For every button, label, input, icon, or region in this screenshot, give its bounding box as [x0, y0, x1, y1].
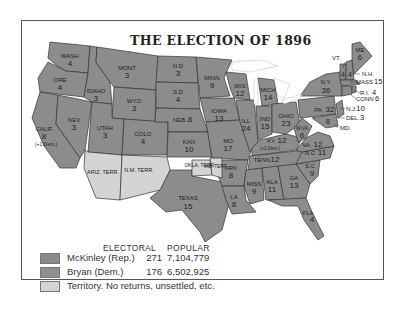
svg-text:4: 4 — [58, 83, 63, 92]
svg-text:3: 3 — [125, 71, 130, 80]
svg-text:9: 9 — [310, 169, 315, 178]
legend-row-bryan: Bryan (Dem.) 176 6,502,925 — [40, 267, 340, 279]
svg-text:8: 8 — [188, 115, 193, 124]
svg-text:KY: KY — [267, 138, 275, 144]
legend-row-mckinley: McKinley (Rep.) 271 7,104,779 — [40, 253, 340, 265]
svg-text:MD.: MD. — [340, 125, 351, 131]
map-title: THE ELECTION OF 1896 — [130, 33, 312, 48]
svg-text:4: 4 — [141, 137, 146, 146]
svg-text:8: 8 — [232, 200, 237, 209]
svg-text:15: 15 — [184, 202, 193, 211]
svg-text:13: 13 — [215, 114, 224, 123]
svg-text:8: 8 — [326, 118, 330, 125]
svg-text:ARIZ. TERR.: ARIZ. TERR. — [87, 169, 119, 175]
svg-text:15: 15 — [261, 122, 270, 131]
svg-text:24: 24 — [242, 124, 251, 133]
svg-text:4: 4 — [341, 71, 345, 78]
state-fla — [268, 198, 324, 240]
svg-text:17: 17 — [224, 144, 233, 153]
svg-text:4: 4 — [176, 95, 181, 104]
svg-text:3: 3 — [360, 113, 364, 122]
territory-ariz — [84, 150, 122, 200]
svg-text:11: 11 — [268, 185, 277, 194]
svg-text:6: 6 — [375, 94, 379, 103]
svg-text:(+1 Dem.): (+1 Dem.) — [35, 141, 58, 147]
svg-text:DEL.: DEL. — [346, 115, 360, 121]
svg-text:9: 9 — [210, 81, 215, 90]
svg-text:6: 6 — [358, 53, 363, 62]
lake-michigan — [254, 80, 258, 104]
svg-text:12: 12 — [278, 136, 287, 145]
svg-text:10: 10 — [185, 145, 194, 154]
svg-text:TENN: TENN — [254, 157, 270, 163]
svg-text:3: 3 — [103, 131, 108, 140]
svg-text:23: 23 — [282, 119, 291, 128]
swatch-territory — [40, 281, 60, 292]
svg-text:N.M. TERR.: N.M. TERR. — [124, 167, 154, 173]
svg-text:15: 15 — [374, 77, 382, 86]
svg-text:CONN: CONN — [356, 96, 374, 102]
svg-text:14: 14 — [264, 93, 273, 102]
svg-text:4: 4 — [68, 59, 73, 68]
svg-text:32: 32 — [326, 105, 335, 114]
svg-text:13: 13 — [290, 181, 299, 190]
svg-text:8: 8 — [229, 171, 234, 180]
svg-text:36: 36 — [322, 86, 331, 95]
svg-text:N.H.: N.H. — [362, 71, 374, 77]
state-nj — [336, 100, 344, 118]
swatch-mckinley — [40, 253, 60, 264]
svg-text:PA: PA — [314, 107, 322, 113]
svg-text:MASS: MASS — [356, 79, 373, 85]
legend-row-territory: Territory. No returns, unsettled, etc. — [40, 281, 340, 293]
swatch-bryan — [40, 267, 60, 278]
svg-text:3: 3 — [94, 94, 99, 103]
svg-text:6: 6 — [300, 131, 305, 140]
svg-text:N.C: N.C — [305, 150, 316, 156]
svg-text:11: 11 — [318, 148, 327, 157]
svg-text:12: 12 — [314, 140, 323, 149]
svg-text:12: 12 — [236, 89, 245, 98]
svg-text:4: 4 — [310, 215, 315, 224]
svg-text:TEXAS: TEXAS — [178, 195, 198, 201]
svg-text:4: 4 — [348, 71, 352, 78]
svg-text:12: 12 — [271, 155, 280, 164]
state-ri — [352, 86, 356, 93]
svg-text:9: 9 — [252, 187, 257, 196]
svg-text:3: 3 — [176, 69, 181, 78]
svg-text:NEB.: NEB. — [173, 117, 187, 123]
svg-text:VA: VA — [302, 142, 310, 148]
svg-text:(+1 Dem.): (+1 Dem.) — [260, 146, 281, 151]
svg-text:10: 10 — [356, 104, 365, 113]
svg-text:3: 3 — [72, 123, 77, 132]
svg-text:3: 3 — [132, 104, 137, 113]
svg-text:VT.: VT. — [332, 55, 341, 61]
svg-text:N.Y.: N.Y. — [321, 79, 332, 85]
lake-superior — [232, 60, 278, 72]
svg-text:8: 8 — [42, 132, 47, 141]
